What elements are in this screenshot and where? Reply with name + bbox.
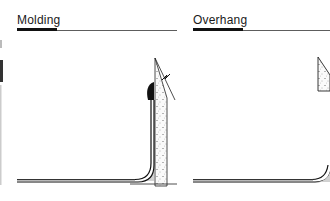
panel-overhang	[168, 28, 330, 184]
molding-bead	[147, 82, 154, 100]
cove-fill	[318, 172, 330, 182]
title-underline-bar	[17, 28, 57, 31]
diagram-canvas	[0, 0, 330, 201]
flooring-sheet	[17, 100, 151, 180]
scan-edge-artifact	[0, 40, 3, 185]
panel-title-molding: Molding	[17, 13, 60, 27]
panel-title-overhang: Overhang	[193, 13, 247, 27]
panel-molding	[17, 28, 177, 186]
flooring-sheet	[193, 165, 328, 180]
title-underline-bar	[193, 28, 243, 31]
wall-overhang	[318, 57, 330, 91]
